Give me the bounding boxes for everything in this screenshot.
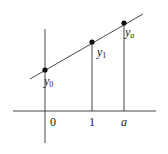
- tick-label-0: 0: [50, 115, 56, 129]
- label-y0: y0: [43, 74, 53, 89]
- label-ya: ya: [124, 25, 134, 40]
- linear-graph-diagram: y0 y1 ya 0 1 a: [0, 0, 168, 154]
- point-y0: [42, 67, 47, 72]
- point-y1: [89, 39, 94, 44]
- tick-label-a: a: [121, 115, 127, 129]
- label-y1: y1: [96, 45, 106, 60]
- tick-label-1: 1: [89, 115, 95, 129]
